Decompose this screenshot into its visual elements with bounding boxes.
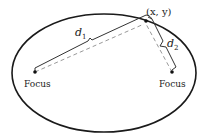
focus-right-dot [170, 70, 174, 74]
focus-left-label: Focus [24, 79, 51, 89]
point-label: (x, y) [146, 6, 172, 17]
ellipse-outline [12, 14, 196, 132]
d1-label: d1 [75, 26, 87, 41]
dashed-line-d1 [35, 24, 144, 72]
ellipse-diagram: (x, y) d1 d2 Focus Focus [0, 0, 208, 140]
point-xy [144, 19, 148, 23]
d2-label: d2 [167, 37, 179, 52]
focus-right-label: Focus [159, 79, 186, 89]
focus-left-dot [33, 70, 37, 74]
